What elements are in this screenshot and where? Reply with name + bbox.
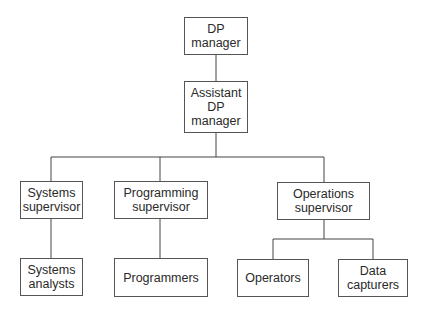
node-dp-manager: DP manager <box>184 17 248 55</box>
node-operations-supervisor: Operations supervisor <box>277 182 370 220</box>
node-programmers: Programmers <box>114 258 208 297</box>
node-programming-supervisor: Programming supervisor <box>114 181 208 219</box>
node-label: Data capturers <box>347 264 399 292</box>
node-label: Programmers <box>123 271 199 285</box>
node-label: Programming supervisor <box>123 186 198 214</box>
node-label: DP manager <box>191 22 240 50</box>
node-label: Operators <box>245 271 301 285</box>
node-assistant-dp-manager: Assistant DP manager <box>184 81 248 133</box>
node-data-capturers: Data capturers <box>338 259 408 297</box>
node-operators: Operators <box>237 259 309 297</box>
node-label: Systems supervisor <box>23 186 81 214</box>
node-systems-supervisor: Systems supervisor <box>20 181 83 219</box>
node-label: Systems analysts <box>28 263 76 291</box>
node-systems-analysts: Systems analysts <box>20 258 83 296</box>
node-label: Operations supervisor <box>293 187 354 215</box>
node-label: Assistant DP manager <box>191 86 242 128</box>
